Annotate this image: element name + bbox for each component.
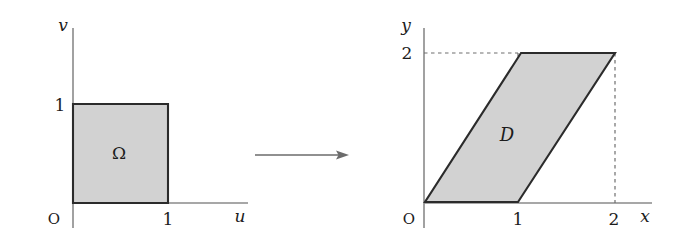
xy-origin-label: O: [403, 212, 415, 227]
uv-origin-label: O: [48, 212, 60, 227]
figure-canvas: [0, 0, 681, 247]
x-tick-1-label: 1: [513, 211, 524, 228]
x-tick-2-label: 2: [609, 211, 620, 228]
v-axis-label: v: [58, 17, 68, 34]
d-region-label: D: [500, 126, 514, 144]
u-axis-label: u: [235, 208, 246, 225]
x-axis-label: x: [640, 208, 650, 225]
v-tick-1-label: 1: [55, 97, 66, 114]
d-parallelogram-region: [425, 53, 615, 202]
uv-plane-panel: [73, 28, 248, 228]
y-tick-2-label: 2: [402, 45, 413, 62]
xy-plane-panel: [424, 28, 652, 228]
y-axis-label: y: [401, 17, 411, 34]
change-of-variables-figure: v u O 1 1 Ω y x O 2 1 2 D: [0, 0, 681, 247]
mapping-arrow: [255, 150, 349, 159]
omega-region-label: Ω: [112, 145, 126, 162]
u-tick-1-label: 1: [163, 211, 174, 228]
